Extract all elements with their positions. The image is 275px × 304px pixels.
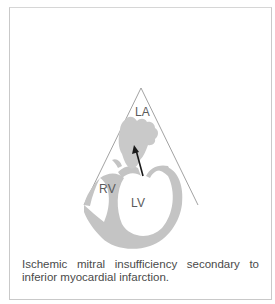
label-left-ventricle: LV: [131, 196, 145, 210]
label-left-atrium: LA: [135, 105, 150, 119]
label-right-ventricle: RV: [99, 182, 116, 196]
mitral-annulus: [118, 166, 141, 178]
la-wall-left: [112, 159, 122, 168]
caption-line-1: Ischemic mitral insufficiency secondary …: [22, 258, 259, 271]
rv-wall: [84, 178, 100, 206]
caption-line-2: inferior myocardial infarction.: [22, 271, 259, 284]
figure-caption: Ischemic mitral insufficiency secondary …: [22, 258, 259, 284]
